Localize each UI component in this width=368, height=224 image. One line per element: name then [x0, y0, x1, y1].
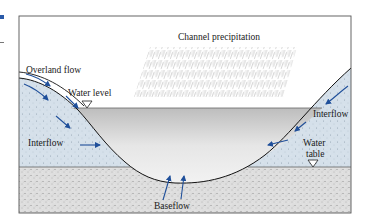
rain-area [134, 47, 297, 97]
channel-precipitation-label: Channel precipitation [178, 32, 260, 42]
interflow-left-label: Interflow [28, 138, 63, 148]
streamflow-cross-section-diagram: Channel precipitation Overland flow Wate… [0, 0, 368, 224]
interflow-right-label: Interflow [313, 109, 348, 119]
overland-flow-label: Overland flow [26, 65, 81, 75]
water-table-label-line1: Water [303, 138, 326, 148]
baseflow-label: Baseflow [154, 201, 190, 211]
water-level-label: Water level [68, 88, 112, 98]
water-table-label-line2: table [306, 149, 324, 159]
